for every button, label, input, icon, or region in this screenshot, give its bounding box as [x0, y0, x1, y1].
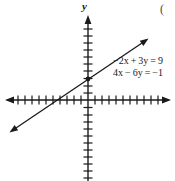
y-intercept-point-marker — [86, 77, 91, 82]
equation-line-2: 4x − 6y = −1 — [113, 67, 163, 79]
y-axis-label: y — [82, 1, 87, 12]
coordinate-plane-figure: y −2x + 3y = 9 4x − 6y = −1 ( — [0, 0, 175, 181]
plotted-line-lower-arrow — [10, 125, 19, 132]
graph-canvas — [0, 0, 175, 181]
x-axis-left-arrow — [5, 97, 14, 104]
equation-line-1: −2x + 3y = 9 — [113, 55, 163, 67]
y-axis-top-arrow — [85, 15, 92, 24]
x-axis-right-arrow — [162, 97, 171, 104]
plotted-line-upper-arrow — [140, 39, 149, 46]
plotted-line-series — [10, 39, 149, 133]
equation-annotation-block: −2x + 3y = 9 4x − 6y = −1 — [113, 55, 163, 79]
y-axis — [84, 15, 93, 181]
part-letter-label: ( — [160, 2, 175, 17]
